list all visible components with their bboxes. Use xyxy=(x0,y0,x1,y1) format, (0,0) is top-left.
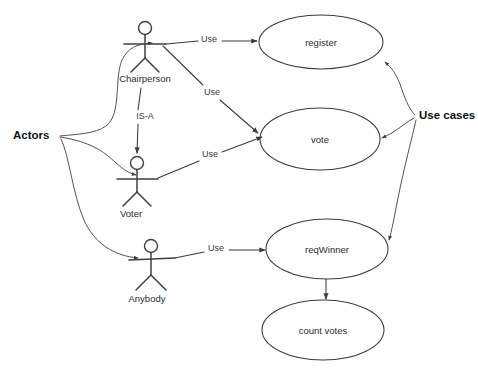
edge-chairperson-register-label: Use xyxy=(201,34,217,44)
edge-anybody-reqwinner-label: Use xyxy=(208,243,224,253)
actor-anybody[interactable]: Anybody xyxy=(129,240,175,304)
use-case-count-votes[interactable]: count votes xyxy=(262,300,384,360)
use-case-vote-label: vote xyxy=(311,134,329,145)
annotation-use-cases-label: Use cases xyxy=(419,109,475,121)
annotation-actors-curve-voter xyxy=(60,137,136,175)
actor-anybody-head xyxy=(145,240,158,253)
actor-chairperson-label: Chairperson xyxy=(119,73,171,84)
edge-chairperson-vote-line-b xyxy=(220,100,258,133)
actor-voter-leg-left xyxy=(123,192,137,206)
edge-anybody-reqwinner[interactable]: Use xyxy=(175,243,265,258)
edge-anybody-reqwinner-line-a xyxy=(175,252,204,258)
edge-isa-label: IS-A xyxy=(136,111,154,121)
actor-chairperson-head xyxy=(139,22,152,35)
actor-anybody-leg-right xyxy=(151,275,166,290)
annotation-actors-label: Actors xyxy=(13,129,49,141)
annotation-use-cases-connector xyxy=(382,62,416,240)
use-case-diagram-canvas: register vote reqWinner count votes Chai… xyxy=(0,0,478,376)
annotation-actors-curve-chairperson xyxy=(60,43,152,136)
annotation-usecases-curve-vote xyxy=(382,118,414,138)
edge-voter-vote-line-a xyxy=(158,161,199,178)
annotation-usecases-curve-reqwinner xyxy=(389,120,416,240)
annotation-usecases-curve-register xyxy=(385,62,415,115)
actor-voter[interactable]: Voter xyxy=(117,157,158,219)
use-case-register-label: register xyxy=(305,37,337,48)
actor-voter-label: Voter xyxy=(120,208,142,219)
edge-voter-vote-line-b xyxy=(222,137,262,152)
diagram-svg: register vote reqWinner count votes Chai… xyxy=(0,0,478,376)
use-case-vote[interactable]: vote xyxy=(260,108,380,170)
edge-isa-line-a xyxy=(138,88,141,110)
use-case-register[interactable]: register xyxy=(259,15,383,69)
actor-anybody-arms xyxy=(129,258,175,260)
annotation-actors-curve-anybody xyxy=(61,139,138,258)
actor-chairperson-leg-right xyxy=(145,58,159,72)
actor-chairperson-leg-left xyxy=(131,58,145,72)
edge-voter-vote[interactable]: Use xyxy=(158,137,262,178)
edge-chairperson-register-line-a xyxy=(166,41,198,44)
edge-isa-line-b xyxy=(137,124,138,153)
edge-chairperson-isa-voter[interactable]: IS-A xyxy=(136,88,154,153)
edge-voter-vote-label: Use xyxy=(202,149,218,159)
use-case-reqwinner-label: reqWinner xyxy=(305,244,349,255)
edge-chairperson-register[interactable]: Use xyxy=(166,34,257,44)
use-case-reqwinner[interactable]: reqWinner xyxy=(266,219,388,279)
use-case-count-votes-label: count votes xyxy=(299,325,348,336)
actor-voter-head xyxy=(131,157,144,170)
actor-anybody-label: Anybody xyxy=(129,293,166,304)
actor-anybody-leg-left xyxy=(136,275,151,290)
edge-chairperson-vote-label: Use xyxy=(204,87,220,97)
edge-chairperson-vote[interactable]: Use xyxy=(163,46,258,133)
actor-voter-leg-right xyxy=(137,192,151,206)
